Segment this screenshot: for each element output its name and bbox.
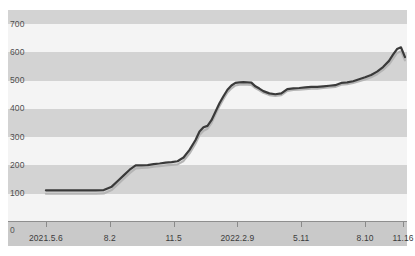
x-axis-tick-label: 8.10 — [357, 233, 374, 243]
x-axis-tick-mark — [403, 222, 404, 227]
x-axis-tick-label: 2022.2.9 — [220, 233, 254, 243]
y-axis-zero-label: 0 — [10, 225, 15, 235]
x-axis-tick-label: 11.16 — [392, 233, 413, 243]
y-axis-tick-label: 300 — [10, 133, 24, 142]
plot-area — [8, 10, 407, 222]
x-axis-tick-label: 11.5 — [165, 233, 181, 243]
series-line-secondary — [46, 51, 405, 193]
series-lines — [8, 10, 407, 222]
x-axis-tick-mark — [365, 222, 366, 227]
series-line-primary — [46, 47, 405, 190]
y-axis-tick-label: 700 — [10, 20, 24, 29]
x-axis-tick-label: 8.2 — [104, 233, 116, 243]
x-axis-tick-mark — [110, 222, 111, 227]
x-axis-tick-mark — [174, 222, 175, 227]
y-axis-tick-label: 200 — [10, 161, 24, 170]
y-axis-tick-label: 600 — [10, 48, 24, 57]
x-axis-strip: 2021.5.68.211.52022.2.95.118.1011.16 — [8, 222, 407, 246]
x-axis-tick-mark — [46, 222, 47, 227]
y-axis-tick-label: 500 — [10, 76, 24, 85]
y-axis-tick-label: 400 — [10, 104, 24, 113]
x-axis-tick-mark — [301, 222, 302, 227]
x-axis-tick-label: 2021.5.6 — [29, 233, 63, 243]
line-chart: 100200300400500600700 2021.5.68.211.5202… — [0, 0, 415, 256]
x-axis-tick-mark — [237, 222, 238, 227]
x-axis-tick-label: 5.11 — [293, 233, 309, 243]
x-axis-line — [8, 221, 407, 222]
y-axis-tick-label: 100 — [10, 189, 24, 198]
